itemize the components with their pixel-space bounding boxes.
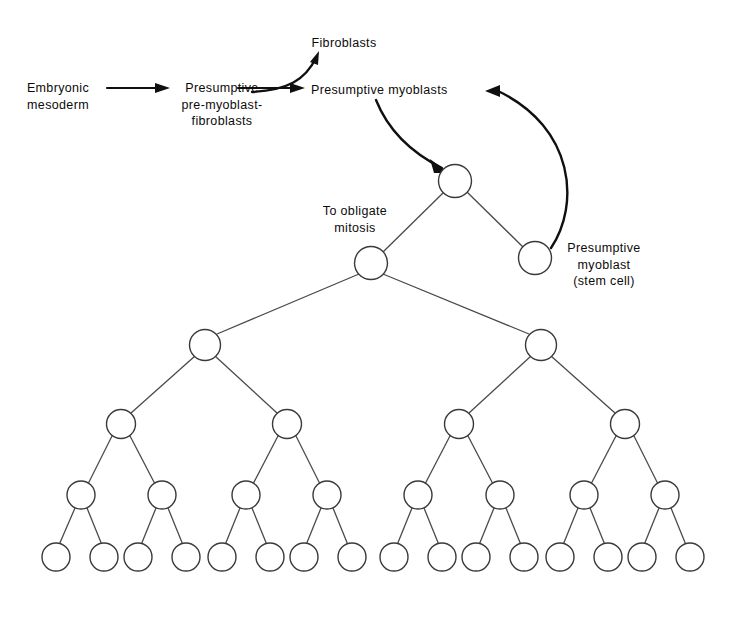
cell-node-leaf-1: [90, 543, 118, 571]
cell-node-leaf-6: [290, 543, 318, 571]
cell-node-l3-1: [273, 410, 302, 439]
label-pre-myoblast-line2: pre-myoblast-: [172, 97, 272, 114]
cell-node-leaf-4: [208, 543, 236, 571]
cell-node-leaf-9: [428, 543, 456, 571]
lineage-diagram: Embryonic mesoderm Presumptive pre-myobl…: [0, 0, 740, 621]
cell-node-daughter-myoblast: [439, 165, 472, 198]
label-embryonic-mesoderm: Embryonic mesoderm: [12, 80, 104, 113]
label-stem-cell-line2: myoblast: [548, 257, 660, 274]
flow-arrow-myoblasts-to-daughter: [376, 100, 449, 173]
cell-node-leaf-8: [380, 543, 408, 571]
label-fibroblasts: Fibroblasts: [298, 35, 390, 52]
cell-node-l4-7: [651, 481, 679, 509]
cell-node-l3-0: [107, 410, 136, 439]
label-presumptive-pre-myoblast-fibroblasts: Presumptive pre-myoblast- fibroblasts: [172, 80, 272, 130]
tree-edges-level2: [131, 356, 615, 413]
label-pre-myoblast-line1: Presumptive: [172, 80, 272, 97]
label-embryonic-mesoderm-line2: mesoderm: [12, 97, 104, 114]
cell-node-l4-2: [232, 481, 260, 509]
cell-node-leaf-0: [42, 543, 70, 571]
cell-node-leaf-10: [462, 543, 490, 571]
cell-node-leaf-12: [546, 543, 574, 571]
cell-node-l3-3: [611, 410, 640, 439]
cell-node-stem-cell: [519, 242, 552, 275]
label-embryonic-mesoderm-line1: Embryonic: [12, 80, 104, 97]
label-presumptive-myoblast-stem-cell: Presumptive myoblast (stem cell): [548, 240, 660, 290]
cell-node-l4-4: [404, 481, 432, 509]
tree-leaves-level5: [42, 543, 704, 571]
tree-edges-level1: [217, 274, 529, 334]
cell-node-leaf-13: [594, 543, 622, 571]
cell-node-l4-6: [570, 481, 598, 509]
cell-node-leaf-11: [510, 543, 538, 571]
label-obligate-mitosis-line1: To obligate: [303, 203, 407, 220]
label-stem-cell-line3: (stem cell): [548, 273, 660, 290]
cell-node-leaf-2: [124, 543, 152, 571]
flow-arrow-embryonic-to-prepresumptive: [107, 83, 170, 93]
cell-node-l2-0: [190, 330, 221, 361]
tree-edges-level4: [59, 508, 686, 545]
cell-node-l4-0: [67, 481, 95, 509]
cell-node-leaf-7: [338, 543, 366, 571]
flow-arrow-stemcell-to-myoblasts: [485, 85, 567, 248]
label-stem-cell-line1: Presumptive: [548, 240, 660, 257]
label-obligate-mitosis-line2: mitosis: [303, 220, 407, 237]
cell-node-l3-2: [445, 410, 474, 439]
cell-node-leaf-14: [628, 543, 656, 571]
label-to-obligate-mitosis: To obligate mitosis: [303, 203, 407, 236]
cell-node-l4-1: [148, 481, 176, 509]
cell-node-l4-5: [486, 481, 514, 509]
cell-node-l2-1: [526, 330, 557, 361]
cell-node-obligate-root: [355, 247, 388, 280]
label-presumptive-myoblasts: Presumptive myoblasts: [311, 82, 448, 99]
label-pre-myoblast-line3: fibroblasts: [172, 113, 272, 130]
cell-node-leaf-5: [256, 543, 284, 571]
cell-node-leaf-15: [676, 543, 704, 571]
cell-node-l4-3: [313, 481, 341, 509]
tree-edges-level3: [88, 434, 658, 484]
cell-node-leaf-3: [172, 543, 200, 571]
